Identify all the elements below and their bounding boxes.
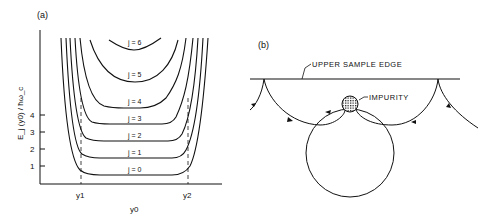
cyclotron-orbit	[306, 109, 394, 197]
ytick-label: 2	[30, 145, 35, 154]
ytick-label: 3	[30, 128, 35, 137]
arrow-icon	[411, 120, 416, 124]
panel-a: (a) 1 2 3 4 E_j (y0) / ħω_c y1 y2 y0	[16, 10, 222, 214]
ytick-label: 4	[30, 111, 35, 120]
orbit-left-partial	[250, 79, 264, 110]
curve-label: j = 1	[127, 149, 142, 157]
impurity-label: IMPURITY	[369, 93, 409, 102]
curve-label: j = 0	[127, 166, 142, 174]
panel-b: (b) UPPER SAMPLE EDGE	[250, 40, 478, 197]
figure-canvas: (a) 1 2 3 4 E_j (y0) / ħω_c y1 y2 y0	[0, 0, 487, 219]
curve-label: j = 6	[127, 39, 142, 47]
curve-labels: j = 0 j = 1 j = 2 j = 3 j = 4 j = 5 j = …	[127, 39, 142, 174]
y2-label: y2	[183, 191, 192, 200]
curve-label: j = 3	[127, 115, 142, 123]
panel-b-label: (b)	[258, 40, 269, 50]
skipping-orbits	[250, 79, 478, 128]
y-ticks: 1 2 3 4	[30, 111, 45, 171]
panel-a-label: (a)	[37, 10, 48, 20]
y-axis-label: E_j (y0) / ħω_c	[16, 87, 25, 140]
curve-label: j = 4	[127, 98, 142, 106]
arrow-icon	[251, 103, 256, 107]
orbit-right-partial	[438, 79, 478, 128]
y1-label: y1	[76, 191, 85, 200]
curve-label: j = 5	[127, 71, 142, 79]
arrow-icon	[325, 110, 331, 114]
impurity-leader	[359, 97, 368, 100]
edge-label-leader	[302, 64, 311, 79]
ytick-label: 1	[30, 162, 35, 171]
edge-label: UPPER SAMPLE EDGE	[312, 60, 402, 69]
orbit-arc-1	[264, 79, 345, 125]
arrow-icon	[287, 117, 293, 122]
x-axis-label: y0	[130, 205, 139, 214]
impurity-icon	[342, 96, 358, 112]
orbit-arc-2	[356, 79, 438, 125]
curve-j2	[70, 38, 198, 141]
curve-label: j = 2	[127, 132, 142, 140]
